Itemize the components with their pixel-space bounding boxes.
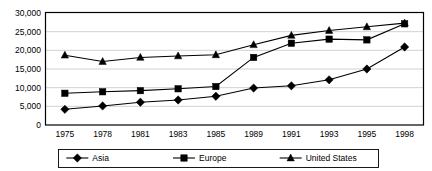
data-point-marker bbox=[364, 37, 370, 43]
y-tick-label: 0 bbox=[36, 120, 41, 130]
x-tick-label: 1995 bbox=[357, 129, 376, 139]
data-point-marker bbox=[288, 40, 294, 46]
legend-label: Asia bbox=[92, 153, 109, 163]
y-tick-label: 5,000 bbox=[20, 101, 42, 111]
x-tick-label: 1981 bbox=[131, 129, 150, 139]
y-tick-label: 10,000 bbox=[15, 83, 41, 93]
legend-marker-square-icon bbox=[181, 155, 187, 161]
data-point-marker bbox=[62, 90, 68, 96]
y-tick-label: 30,000 bbox=[15, 8, 41, 18]
x-tick-label: 1993 bbox=[320, 129, 339, 139]
line-chart: 05,00010,00015,00020,00025,00030,000 197… bbox=[0, 0, 432, 171]
data-point-marker bbox=[250, 54, 256, 60]
data-point-marker bbox=[326, 36, 332, 42]
legend-label: Europe bbox=[199, 153, 227, 163]
chart-canvas: 05,00010,00015,00020,00025,00030,000 197… bbox=[0, 0, 432, 171]
data-point-marker bbox=[175, 86, 181, 92]
y-tick-label: 25,000 bbox=[15, 27, 41, 37]
chart-legend: AsiaEuropeUnited States bbox=[59, 150, 379, 168]
y-tick-label: 20,000 bbox=[15, 45, 41, 55]
legend-label: United States bbox=[306, 153, 357, 163]
x-tick-label: 1978 bbox=[93, 129, 112, 139]
x-tick-label: 1985 bbox=[206, 129, 225, 139]
x-tick-label: 1989 bbox=[244, 129, 263, 139]
y-tick-label: 15,000 bbox=[15, 64, 41, 74]
data-point-marker bbox=[137, 87, 143, 93]
data-point-marker bbox=[213, 83, 219, 89]
x-tick-label: 1998 bbox=[395, 129, 414, 139]
x-tick-label: 1983 bbox=[169, 129, 188, 139]
data-point-marker bbox=[99, 89, 105, 95]
x-tick-label: 1991 bbox=[282, 129, 301, 139]
x-tick-label: 1975 bbox=[55, 129, 74, 139]
